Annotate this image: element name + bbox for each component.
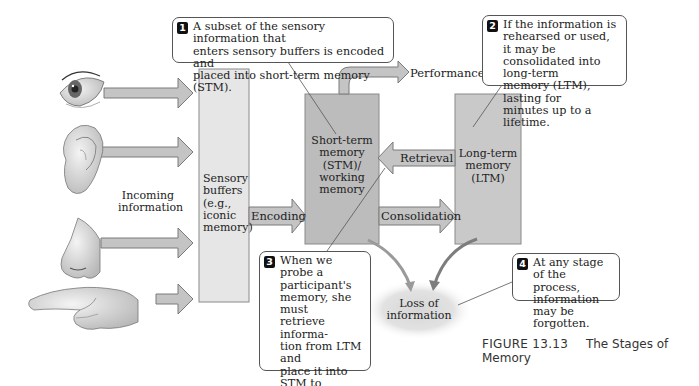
ltm-loss-arrow — [434, 239, 477, 286]
encoding-label: Encoding — [251, 209, 306, 223]
callout4-leader — [458, 282, 512, 305]
badge-4: 4 — [517, 258, 528, 270]
loss-of-information-label: Loss of information — [383, 298, 455, 323]
ltm-label: Long-term memory (LTM) — [455, 148, 521, 185]
badge-1: 1 — [177, 22, 188, 34]
incoming-information-label: Incoming information — [118, 190, 178, 215]
ear-arrow — [100, 137, 193, 167]
sensory-buffers-label: Sensory buffers (e.g., iconic memory) — [203, 173, 251, 234]
callout-2: 2 If the information is rehearsed or use… — [482, 15, 627, 86]
retrieval-label: Retrieval — [400, 151, 453, 165]
stm-loss-arrow — [368, 240, 411, 288]
consolidation-label: Consolidation — [381, 209, 461, 223]
eye-icon — [60, 72, 104, 108]
performance-label: Performance — [410, 66, 485, 80]
eye-arrow — [104, 78, 193, 108]
ear-icon — [63, 125, 103, 193]
callout-4: 4 At any stage of the process, informati… — [512, 253, 620, 301]
badge-3: 3 — [264, 256, 275, 268]
badge-2: 2 — [487, 20, 498, 32]
figure-caption: FIGURE 13.13 The Stages of Memory — [482, 337, 699, 365]
stm-label: Short-term memory (STM)/ working memory — [305, 135, 379, 196]
hand-arrow — [156, 284, 193, 314]
nose-arrow — [101, 228, 193, 258]
nose-icon — [61, 218, 100, 278]
callout-3: 3 When we probe a participant's memory, … — [259, 251, 371, 371]
hand-icon — [29, 287, 138, 329]
callout-1: 1 A subset of the sensory information th… — [172, 17, 394, 63]
figure-number: FIGURE 13.13 — [482, 337, 568, 351]
